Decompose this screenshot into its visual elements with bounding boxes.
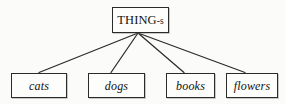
node-leaf-dogs[interactable]: dogs [88,73,145,98]
node-leaf-books[interactable]: books [166,73,215,98]
node-root-things[interactable]: THING-s [112,7,169,33]
edge-root-to-flowers [138,33,245,73]
node-leaf-flowers[interactable]: flowers [226,73,278,98]
node-root-label-suffix: -s [157,16,164,26]
edge-root-to-dogs [111,33,138,73]
node-leaf-flowers-label: flowers [234,80,271,92]
edge-root-to-books [138,33,184,73]
edge-root-to-cats [39,33,138,73]
node-leaf-books-label: books [176,80,205,92]
tree-diagram: THING-s cats dogs books flowers [0,0,285,104]
node-leaf-cats[interactable]: cats [11,73,67,98]
node-root-label: THING-s [117,14,163,27]
node-leaf-cats-label: cats [29,80,49,92]
node-leaf-dogs-label: dogs [105,80,128,92]
node-root-label-main: THING [117,13,156,27]
